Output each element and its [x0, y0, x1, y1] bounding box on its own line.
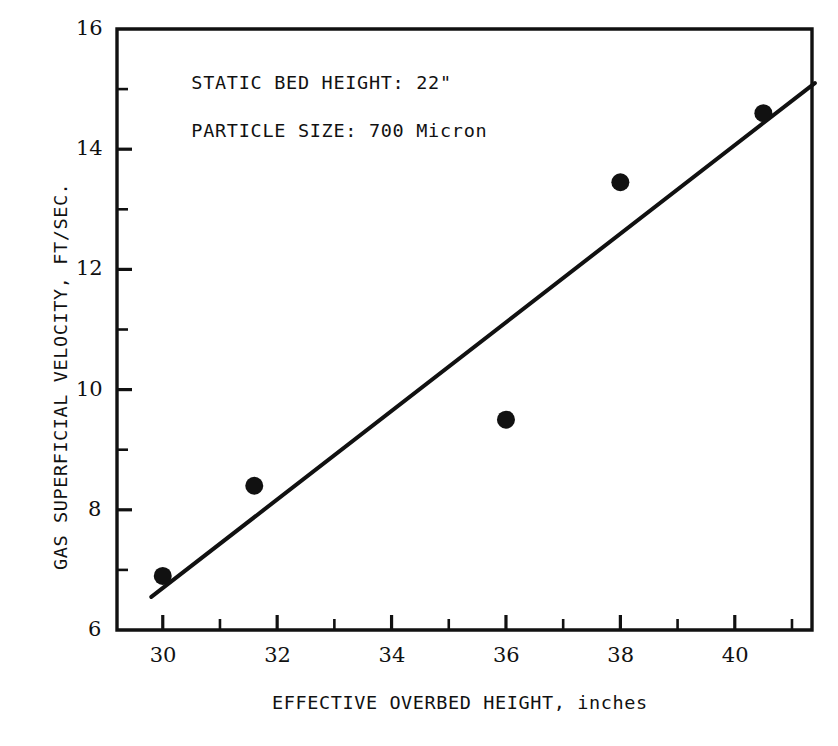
annotation-particle-size: PARTICLE SIZE: 700 Micron: [191, 122, 487, 141]
x-tick-label: 40: [722, 645, 749, 666]
data-point-marker: [754, 104, 772, 122]
y-tick-label: 16: [76, 18, 103, 39]
trend-line: [151, 83, 815, 597]
annotation-static-bed-height: STATIC BED HEIGHT: 22": [191, 74, 451, 93]
y-tick-label: 6: [88, 619, 101, 640]
x-tick-label: 36: [493, 645, 520, 666]
x-axis-label: EFFECTIVE OVERBED HEIGHT, inches: [272, 694, 648, 713]
data-points: [154, 104, 773, 585]
y-tick-label: 8: [88, 499, 101, 520]
x-tick-label: 38: [607, 645, 634, 666]
data-point-marker: [154, 567, 172, 585]
y-tick-label: 12: [76, 258, 103, 279]
x-tick-label: 30: [150, 645, 177, 666]
y-tick-label: 10: [76, 379, 103, 400]
y-tick-label: 14: [76, 138, 103, 159]
axis-frame-path: [117, 29, 812, 630]
chart-figure: 303234363840 6810121416 GAS SUPERFICIAL …: [0, 0, 838, 746]
chart-plot-area: [0, 0, 838, 746]
data-point-marker: [611, 173, 629, 191]
data-point-marker: [245, 477, 263, 495]
axes-frame: [117, 29, 812, 630]
axis-ticks: [117, 89, 792, 630]
data-point-marker: [497, 411, 515, 429]
x-tick-label: 34: [379, 645, 406, 666]
trend-line-path: [151, 83, 815, 597]
y-axis-label: GAS SUPERFICIAL VELOCITY, FT/SEC.: [52, 183, 71, 570]
x-tick-label: 32: [264, 645, 291, 666]
